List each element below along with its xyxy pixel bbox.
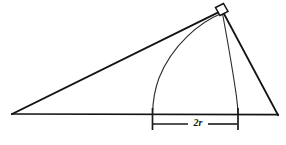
geometry-figure: 2r — [0, 0, 286, 145]
triangle-hypotenuse — [12, 11, 221, 114]
arc-right-branch — [223, 14, 239, 115]
dimension-label-2r: 2r — [188, 118, 208, 128]
figure-canvas — [0, 0, 286, 145]
